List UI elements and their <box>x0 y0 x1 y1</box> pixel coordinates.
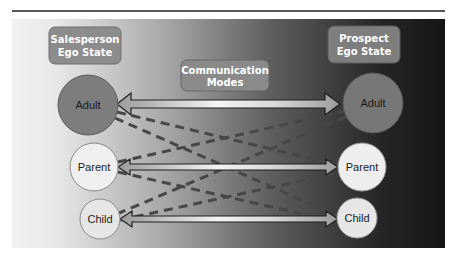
prospect-parent-label: Parent <box>346 161 378 173</box>
transactional-analysis-diagram: Salesperson Ego State Prospect Ego State… <box>0 0 458 273</box>
prospect-adult-label: Adult <box>360 97 385 109</box>
salesperson-parent-label: Parent <box>78 161 110 173</box>
salesperson-adult-label: Adult <box>75 99 100 111</box>
salesperson-label-line2: Ego State <box>58 47 113 58</box>
salesperson-ego-state-box: Salesperson Ego State <box>49 27 121 64</box>
salesperson-label-line1: Salesperson <box>51 34 120 45</box>
communication-modes-box: Communication Modes <box>181 60 269 91</box>
prospect-label-line1: Prospect <box>339 33 389 44</box>
communication-label-line1: Communication <box>181 65 269 76</box>
diagram-frame: Salesperson Ego State Prospect Ego State… <box>0 0 458 273</box>
prospect-label-line2: Ego State <box>337 46 392 57</box>
salesperson-child-label: Child <box>87 213 112 225</box>
communication-label-line2: Modes <box>207 77 244 88</box>
prospect-ego-state-box: Prospect Ego State <box>328 26 400 63</box>
prospect-child-label: Child <box>344 212 369 224</box>
